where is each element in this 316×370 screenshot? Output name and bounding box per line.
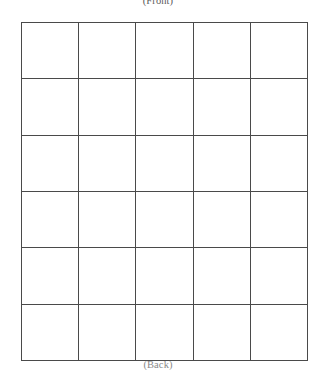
grid-cell[interactable] (250, 23, 307, 79)
grid-cell[interactable] (250, 79, 307, 135)
grid-cell[interactable] (136, 23, 193, 79)
table-row (22, 191, 308, 247)
grid-cell[interactable] (250, 304, 307, 360)
grid-cell[interactable] (136, 304, 193, 360)
grid-cell[interactable] (193, 23, 250, 79)
grid-cell[interactable] (193, 248, 250, 304)
grid-cell[interactable] (22, 248, 79, 304)
back-caption: (Back) (0, 359, 316, 370)
grid-cell[interactable] (250, 135, 307, 191)
table-row (22, 248, 308, 304)
grid-container (21, 22, 302, 354)
grid-cell[interactable] (193, 304, 250, 360)
grid-cell[interactable] (22, 135, 79, 191)
table-row (22, 23, 308, 79)
grid-cell[interactable] (79, 248, 136, 304)
grid-cell[interactable] (22, 79, 79, 135)
grid-cell[interactable] (79, 135, 136, 191)
blank-grid-table (21, 22, 308, 361)
table-row (22, 304, 308, 360)
grid-cell[interactable] (136, 191, 193, 247)
table-row (22, 79, 308, 135)
grid-cell[interactable] (22, 191, 79, 247)
grid-cell[interactable] (136, 248, 193, 304)
grid-cell[interactable] (193, 135, 250, 191)
grid-cell[interactable] (79, 304, 136, 360)
grid-cell[interactable] (193, 191, 250, 247)
grid-cell[interactable] (193, 79, 250, 135)
grid-cell[interactable] (250, 191, 307, 247)
table-row (22, 135, 308, 191)
grid-body (22, 23, 308, 361)
grid-cell[interactable] (22, 304, 79, 360)
grid-cell[interactable] (136, 135, 193, 191)
grid-cell[interactable] (136, 79, 193, 135)
grid-cell[interactable] (79, 79, 136, 135)
grid-cell[interactable] (79, 23, 136, 79)
front-caption: (Front) (0, 0, 316, 6)
grid-cell[interactable] (22, 23, 79, 79)
grid-cell[interactable] (250, 248, 307, 304)
grid-cell[interactable] (79, 191, 136, 247)
